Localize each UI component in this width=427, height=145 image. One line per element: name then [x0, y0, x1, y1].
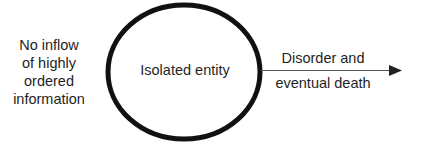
entropy-diagram: No inflow of highly ordered information … [0, 0, 427, 145]
no-inflow-line-4: information [0, 90, 98, 108]
arrowhead-icon [389, 65, 402, 76]
arrow-label-line-2: eventual death [268, 74, 378, 92]
no-inflow-line-3: ordered [0, 72, 98, 90]
no-inflow-label: No inflow of highly ordered information [0, 36, 98, 108]
isolated-entity-label: Isolated entity [125, 61, 245, 79]
no-inflow-line-2: of highly [0, 54, 98, 72]
arrow-label-line-1: Disorder and [268, 49, 378, 67]
no-inflow-line-1: No inflow [0, 36, 98, 54]
